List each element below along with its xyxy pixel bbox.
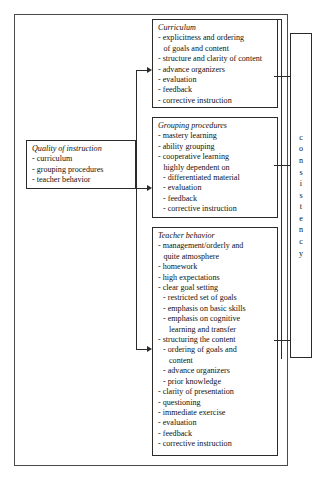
list-item: - explicitness and ordering <box>158 33 273 43</box>
list-item: - restricted set of goals <box>158 293 273 303</box>
list-item: - evaluation <box>158 418 273 428</box>
consistency-letter: n <box>299 155 303 167</box>
list-item: - clarity of presentation <box>158 387 273 397</box>
list-item: - questioning <box>158 398 273 408</box>
consistency-bracket-stub-curriculum <box>274 76 290 77</box>
list-item: learning and transfer <box>158 325 273 335</box>
list-item: - structuring the content <box>158 335 273 345</box>
list-item: - evaluation <box>158 183 273 193</box>
list-item: content <box>158 356 273 366</box>
consistency-bracket-stub-grouping <box>274 165 290 166</box>
list-item: - emphasis on cognitive <box>158 314 273 324</box>
consistency-letter: c <box>299 132 303 144</box>
list-item: - immediate exercise <box>158 408 273 418</box>
box-grouping-title: Grouping procedures <box>158 121 273 131</box>
consistency-letter: i <box>300 178 302 190</box>
list-item: - clear goal setting <box>158 283 273 293</box>
box-teacher-behavior: Teacher behavior - management/orderly an… <box>152 227 278 456</box>
arrow-head-curriculum-icon <box>147 67 152 73</box>
list-item: - corrective instruction <box>158 204 273 214</box>
consistency-letter: s <box>299 167 302 179</box>
consistency-letter: y <box>299 248 303 260</box>
box-consistency: c o n s i s t e n c y <box>290 33 312 358</box>
connector-trunk-vertical <box>136 70 137 349</box>
list-item: - feedback <box>158 194 273 204</box>
list-item: - grouping procedures <box>32 165 131 175</box>
box-teacher-title: Teacher behavior <box>158 231 273 241</box>
consistency-letter: n <box>299 224 303 236</box>
list-item: - differentiated material <box>158 173 273 183</box>
box-curriculum: Curriculum - explicitness and ordering o… <box>152 19 278 108</box>
list-item: - prior knowledge <box>158 377 273 387</box>
list-item: - feedback <box>158 429 273 439</box>
arrow-head-grouping-icon <box>147 185 152 191</box>
list-item: of goals and content <box>158 44 273 54</box>
box-quality-title: Quality of instruction <box>32 144 131 154</box>
list-item: - corrective instruction <box>158 439 273 449</box>
box-curriculum-list: - explicitness and ordering of goals and… <box>158 33 273 106</box>
consistency-letter: t <box>300 201 302 213</box>
consistency-bracket-stub-teacher <box>274 340 290 341</box>
consistency-vertical-label: c o n s i s t e n c y <box>299 132 303 260</box>
list-item: - advance organizers <box>158 65 273 75</box>
list-item: - feedback <box>158 85 273 95</box>
list-item: - high expectations <box>158 273 273 283</box>
list-item: - mastery learning <box>158 131 273 141</box>
list-item: quite atmosphere <box>158 252 273 262</box>
list-item: - teacher behavior <box>32 175 131 185</box>
consistency-bracket-top-stub <box>278 19 282 20</box>
box-quality-of-instruction: Quality of instruction - curriculum - gr… <box>26 140 136 189</box>
list-item: - curriculum <box>32 154 131 164</box>
consistency-letter: e <box>299 213 303 225</box>
box-grouping-procedures: Grouping procedures - mastery learning -… <box>152 117 278 218</box>
consistency-letter: c <box>299 236 303 248</box>
list-item: - cooperative learning <box>158 152 273 162</box>
list-item: - management/orderly and <box>158 241 273 251</box>
box-teacher-list: - management/orderly and quite atmospher… <box>158 241 273 449</box>
box-quality-list: - curriculum - grouping procedures - tea… <box>32 154 131 185</box>
consistency-letter: o <box>299 143 303 155</box>
list-item: - structure and clarity of content <box>158 54 273 64</box>
list-item: - corrective instruction <box>158 96 273 106</box>
list-item: - emphasis on basic skills <box>158 304 273 314</box>
box-curriculum-title: Curriculum <box>158 23 273 33</box>
consistency-bracket-vertical <box>281 19 282 359</box>
arrow-head-teacher-icon <box>147 346 152 352</box>
list-item: - evaluation <box>158 75 273 85</box>
list-item: - ability grouping <box>158 142 273 152</box>
list-item: highly dependent on <box>158 163 273 173</box>
list-item: - advance organizers <box>158 366 273 376</box>
consistency-letter: s <box>299 190 302 202</box>
list-item: - ordering of goals and <box>158 345 273 355</box>
connector-trunk-stub <box>136 164 137 165</box>
list-item: - homework <box>158 262 273 272</box>
box-grouping-list: - mastery learning - ability grouping - … <box>158 131 273 214</box>
diagram-canvas: Quality of instruction - curriculum - gr… <box>0 0 331 480</box>
